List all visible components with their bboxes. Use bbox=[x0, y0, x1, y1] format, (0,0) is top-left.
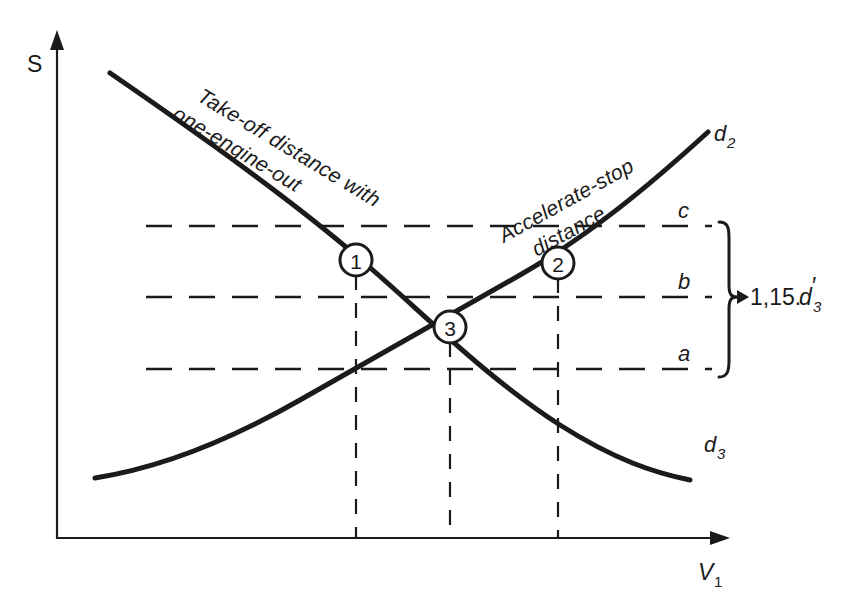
marker-1-label: 1 bbox=[350, 250, 362, 273]
curve-label-d3: d bbox=[704, 432, 717, 457]
y-axis-arrowhead bbox=[50, 30, 64, 50]
level-lines-group bbox=[146, 226, 712, 369]
marker-2-label: 2 bbox=[552, 253, 564, 276]
marker-3-group[interactable]: 3 bbox=[434, 311, 466, 343]
curve-label-d2-group: d 2 bbox=[714, 121, 736, 151]
level-label-a: a bbox=[678, 341, 690, 366]
curve-label-d2-subscript: 2 bbox=[726, 134, 736, 151]
range-brace bbox=[719, 222, 737, 377]
level-label-b: b bbox=[678, 269, 690, 294]
takeoff-distance-label-group: Take-off distance with one-engine-out bbox=[169, 78, 385, 236]
x-axis-arrowhead bbox=[710, 531, 730, 545]
balanced-field-length-diagram: S V 1 d 2 d 3 bbox=[0, 0, 841, 597]
marker-3-label: 3 bbox=[444, 317, 456, 340]
marker-2-group[interactable]: 2 bbox=[542, 247, 574, 279]
curve-label-d3-subscript: 3 bbox=[717, 445, 726, 462]
marker-1-group[interactable]: 1 bbox=[340, 244, 372, 276]
curve-label-d3-group: d 3 bbox=[704, 432, 726, 462]
x-axis-label-group: V 1 bbox=[698, 559, 722, 590]
annotation-symbol: d bbox=[799, 284, 813, 310]
level-label-c: c bbox=[678, 198, 689, 223]
x-axis-label-subscript: 1 bbox=[714, 573, 722, 590]
annotation-prime: ′ bbox=[812, 273, 816, 299]
annotation-subscript: 3 bbox=[813, 298, 822, 315]
annotation-value: 1,15. bbox=[750, 284, 801, 310]
curve-label-d2: d bbox=[714, 121, 727, 146]
y-axis-label: S bbox=[27, 51, 42, 77]
diagram-canvas: S V 1 d 2 d 3 bbox=[0, 0, 841, 597]
annotation-group: 1,15. d ′ 3 bbox=[750, 273, 822, 315]
annotation-arrowhead bbox=[737, 290, 749, 304]
